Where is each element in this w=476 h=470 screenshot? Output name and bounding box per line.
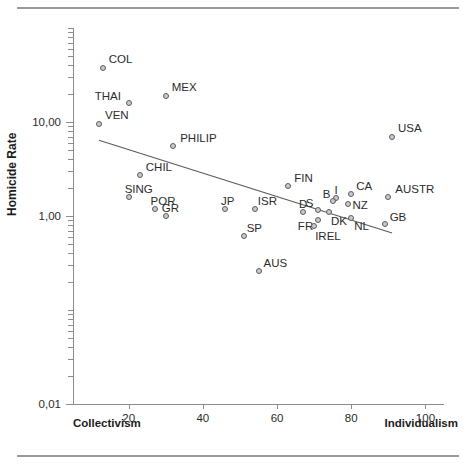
- data-point-label: COL: [109, 54, 133, 66]
- y-tick-minor: [68, 131, 73, 132]
- y-tick-minor: [68, 77, 73, 78]
- y-tick-minor: [68, 319, 73, 320]
- data-point-label: D: [299, 199, 307, 211]
- data-point-label: GR: [162, 203, 179, 215]
- data-point-label: NZ: [353, 200, 368, 212]
- data-point-label: VEN: [105, 110, 129, 122]
- y-tick-minor: [68, 338, 73, 339]
- y-tick-minor: [68, 159, 73, 160]
- y-tick-minor: [68, 32, 73, 33]
- y-tick-minor: [68, 126, 73, 127]
- data-point-label: THAI: [95, 91, 121, 103]
- data-point-label: ISR: [258, 196, 277, 208]
- data-point-label: AUS: [264, 258, 288, 270]
- y-tick-minor: [68, 37, 73, 38]
- homicide-individualism-scatter-figure: Homicide Rate Collectivism Individualism…: [0, 0, 476, 470]
- y-tick-minor: [68, 150, 73, 151]
- y-tick-minor: [68, 376, 73, 377]
- data-point-label: IREL: [315, 231, 341, 243]
- y-tick-minor: [68, 237, 73, 238]
- x-tick: [203, 404, 204, 409]
- data-point[interactable]: [96, 121, 102, 127]
- x-tick-label: 80: [345, 412, 358, 424]
- y-tick-minor: [68, 265, 73, 266]
- y-tick-major: [66, 216, 73, 217]
- data-point-label: AUSTR: [395, 184, 434, 196]
- y-tick-label: 0,01: [1, 398, 61, 410]
- data-point-label: I: [334, 185, 337, 197]
- top-divider-rule: [17, 7, 459, 9]
- y-tick-minor: [68, 231, 73, 232]
- y-tick-minor: [68, 143, 73, 144]
- data-point-label: DK: [331, 216, 347, 228]
- y-tick-minor: [68, 314, 73, 315]
- y-tick-minor: [68, 282, 73, 283]
- y-tick-minor: [68, 225, 73, 226]
- data-point-label: CA: [356, 181, 372, 193]
- y-tick-minor: [68, 56, 73, 57]
- y-tick-minor: [68, 325, 73, 326]
- y-tick-label: 10,00: [1, 116, 61, 128]
- x-tick: [277, 404, 278, 409]
- data-point-label: GB: [390, 212, 407, 224]
- data-point[interactable]: [389, 134, 395, 140]
- y-tick-minor: [68, 137, 73, 138]
- x-tick: [425, 404, 426, 409]
- data-point-label: USA: [398, 123, 422, 135]
- data-point-label: B: [323, 189, 331, 201]
- data-point[interactable]: [137, 172, 143, 178]
- data-point[interactable]: [163, 93, 169, 99]
- x-tick: [351, 404, 352, 409]
- data-point-label: MEX: [172, 82, 197, 94]
- data-point[interactable]: [345, 201, 351, 207]
- y-tick-label: 1,00: [1, 210, 61, 222]
- y-tick-minor: [68, 65, 73, 66]
- data-point[interactable]: [170, 143, 176, 149]
- data-point[interactable]: [126, 100, 132, 106]
- data-point-label: PHILIP: [180, 133, 216, 145]
- y-tick-minor: [68, 49, 73, 50]
- data-point[interactable]: [100, 65, 106, 71]
- x-tick-label: 60: [271, 412, 284, 424]
- y-tick-minor: [68, 331, 73, 332]
- data-point-label: SP: [247, 223, 262, 235]
- y-tick-minor: [68, 188, 73, 189]
- data-point[interactable]: [330, 198, 336, 204]
- y-tick-minor: [68, 220, 73, 221]
- y-tick-minor: [68, 253, 73, 254]
- data-point[interactable]: [315, 207, 321, 213]
- x-tick: [129, 404, 130, 409]
- regression-trend-line: [73, 28, 444, 404]
- x-tick-label: 40: [196, 412, 209, 424]
- y-tick-major: [66, 404, 73, 405]
- data-point-label: SING: [125, 184, 153, 196]
- data-point[interactable]: [311, 223, 317, 229]
- data-point[interactable]: [315, 217, 321, 223]
- y-tick-minor: [68, 94, 73, 95]
- data-point[interactable]: [285, 183, 291, 189]
- x-tick-label: 20: [122, 412, 135, 424]
- y-axis-title: Homicide Rate: [5, 133, 19, 216]
- data-point-label: CHIL: [146, 162, 172, 174]
- y-tick-minor: [68, 359, 73, 360]
- data-point-label: JP: [221, 196, 234, 208]
- data-point-label: NL: [354, 221, 369, 233]
- y-tick-minor: [68, 43, 73, 44]
- y-tick-minor: [68, 310, 73, 311]
- y-tick-minor: [68, 171, 73, 172]
- data-point[interactable]: [256, 268, 262, 274]
- data-point-label: FIN: [294, 173, 313, 185]
- y-tick-major: [66, 122, 73, 123]
- x-tick-label: 100: [416, 412, 435, 424]
- data-point[interactable]: [385, 194, 391, 200]
- bottom-divider-rule: [17, 455, 459, 457]
- data-point[interactable]: [348, 191, 354, 197]
- y-tick-minor: [68, 28, 73, 29]
- data-point[interactable]: [382, 221, 388, 227]
- y-tick-minor: [68, 244, 73, 245]
- y-tick-minor: [68, 347, 73, 348]
- plot-area: 10,001,000,01 20406080100 COLMEXTHAIVENU…: [73, 28, 444, 404]
